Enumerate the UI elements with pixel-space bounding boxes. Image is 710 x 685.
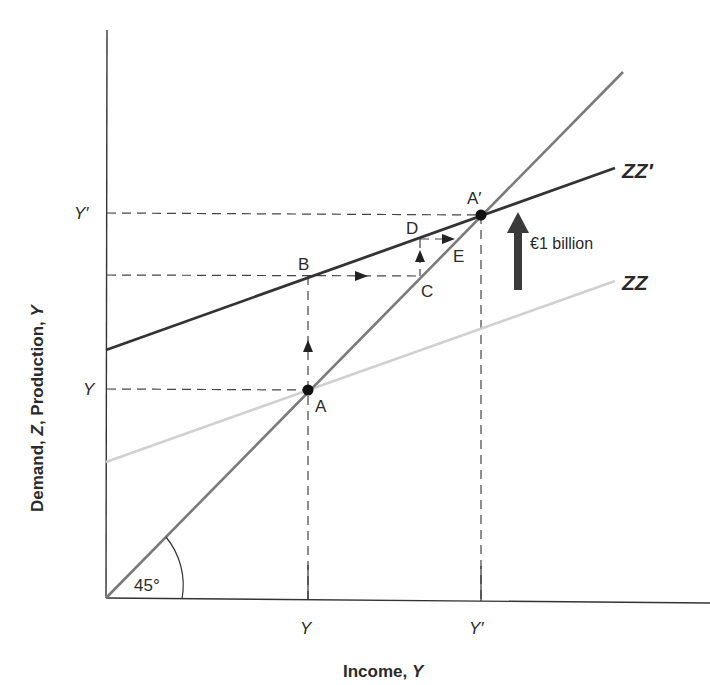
y-tick-y-prime: Y′ <box>74 204 89 223</box>
arrow-right-icon <box>355 271 368 281</box>
label-c: C <box>421 282 433 301</box>
zz-prime-label: ZZ′ <box>621 159 654 182</box>
shift-arrow-icon <box>507 212 529 290</box>
label-d: D <box>406 219 418 238</box>
multiplier-diagram: 45° €1 billion A A′ B C D E ZZ′ ZZ Y′ Y … <box>0 0 710 685</box>
point-a-prime <box>476 210 487 221</box>
y-axis <box>106 30 107 598</box>
point-a <box>303 385 314 396</box>
angle-label: 45° <box>134 576 160 595</box>
x-tick-y-prime: Y′ <box>469 619 484 638</box>
angle-arc <box>166 537 183 599</box>
45-degree-line <box>106 72 623 598</box>
label-a-prime: A′ <box>467 189 482 208</box>
arrow-right-icon <box>442 234 455 244</box>
zz-prime-line <box>106 168 615 350</box>
label-e: E <box>453 247 464 266</box>
label-a: A <box>315 397 327 416</box>
shift-annotation: €1 billion <box>530 235 593 252</box>
y-axis-title: Demand, Z, Production, Y <box>28 303 47 512</box>
x-axis <box>106 598 710 603</box>
arrow-up-icon <box>303 340 313 352</box>
zz-label: ZZ <box>621 271 649 294</box>
x-axis-title: Income, Y <box>343 662 425 681</box>
label-b: B <box>298 255 309 274</box>
zz-line <box>106 281 615 462</box>
y-tick-y: Y <box>83 380 96 399</box>
x-tick-y: Y <box>300 619 313 638</box>
arrow-up-icon <box>415 250 425 262</box>
